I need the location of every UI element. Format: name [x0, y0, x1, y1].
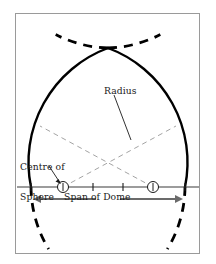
label-span-of-dome: Span of Dome: [64, 192, 131, 202]
centre-marker-right: [148, 182, 159, 193]
dashed-arc-upper-left: [56, 35, 108, 48]
dome-diagram-figure: Radius Centre of Sphere Span of Dome: [0, 0, 216, 264]
span-arrow-right-head: [175, 195, 183, 203]
label-centre-of-sphere-line1: Centre of: [20, 162, 65, 172]
label-centre-of-sphere: Centre of Sphere: [20, 142, 65, 222]
label-radius: Radius: [104, 86, 137, 96]
dome-construction-drawing: [0, 0, 216, 264]
construction-radius-left: [63, 126, 176, 187]
label-centre-of-sphere-line2: Sphere: [20, 192, 65, 202]
dashed-arc-upper-right: [108, 35, 160, 48]
dome-arc-right: [108, 48, 188, 187]
radius-leader-line: [114, 95, 131, 140]
